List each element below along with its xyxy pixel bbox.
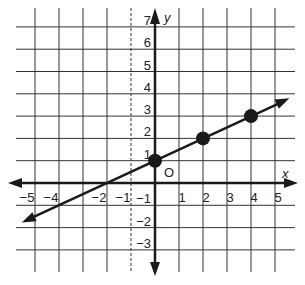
y-axis-label: y bbox=[163, 10, 172, 25]
y-tick-label: 7 bbox=[144, 13, 151, 28]
y-tick-label: 2 bbox=[144, 124, 151, 139]
x-tick-label: −2 bbox=[92, 190, 107, 205]
x-tick-label: 2 bbox=[202, 190, 209, 205]
y-tick-label: 5 bbox=[144, 58, 151, 73]
axes bbox=[8, 8, 298, 276]
y-tick-label: −3 bbox=[136, 236, 151, 251]
y-tick-label: 4 bbox=[144, 80, 151, 95]
coordinate-plane-chart: −5−4−2−1123457654321−1−2−3 x y O bbox=[0, 0, 305, 285]
line-left-arrow-icon bbox=[22, 212, 37, 222]
y-tick-label: −1 bbox=[136, 191, 151, 206]
data-point bbox=[244, 109, 258, 123]
y-axis-down-arrow-icon bbox=[150, 262, 160, 276]
x-axis-label: x bbox=[281, 166, 289, 181]
line-right-arrow-icon bbox=[275, 98, 290, 108]
data-point bbox=[148, 154, 162, 168]
y-tick-label: 6 bbox=[144, 35, 151, 50]
y-tick-label: −2 bbox=[136, 214, 151, 229]
x-axis-left-arrow-icon bbox=[8, 178, 22, 188]
x-tick-label: 3 bbox=[226, 190, 233, 205]
x-tick-label: 5 bbox=[274, 190, 281, 205]
x-tick-label: 1 bbox=[178, 190, 185, 205]
y-tick-label: 3 bbox=[144, 102, 151, 117]
x-tick-label: −4 bbox=[44, 190, 59, 205]
x-tick-label: −1 bbox=[116, 190, 131, 205]
x-tick-label: −5 bbox=[20, 190, 35, 205]
x-tick-label: 4 bbox=[250, 190, 257, 205]
origin-label: O bbox=[164, 165, 174, 180]
data-point bbox=[196, 131, 210, 145]
y-axis-up-arrow-icon bbox=[150, 8, 160, 24]
